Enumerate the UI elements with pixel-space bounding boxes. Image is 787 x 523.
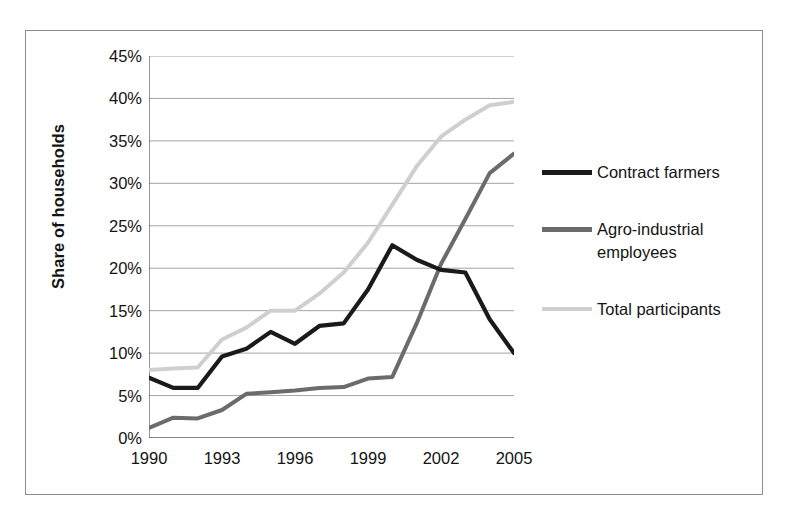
y-axis-tick-label: 30%: [90, 174, 142, 193]
legend-item[interactable]: Total participants: [542, 298, 752, 321]
x-axis-tick-label: 2005: [496, 449, 533, 468]
series-lines: [149, 102, 514, 428]
legend-swatch-icon: [542, 307, 592, 311]
y-axis-tick-label: 40%: [90, 89, 142, 108]
x-axis-tick-label: 2002: [423, 449, 460, 468]
x-axis-tick-label: 1993: [204, 449, 241, 468]
y-axis-tick-label: 35%: [90, 131, 142, 150]
x-axis-tick-label: 1990: [131, 449, 168, 468]
y-axis-title: Share of households: [49, 97, 68, 317]
x-axis-tick-label: 1996: [277, 449, 314, 468]
legend-item-label: Agro-industrial employees: [597, 218, 747, 264]
x-axis-tick-labels: 199019931996199920022005: [149, 449, 514, 477]
chart-legend: Contract farmersAgro-industrial employee…: [542, 161, 752, 355]
plot-area: [149, 56, 514, 438]
legend-item-label: Contract farmers: [597, 161, 720, 184]
x-axis-tick-label: 1999: [350, 449, 387, 468]
chart-figure-frame: Share of households 0%5%10%15%20%25%30%3…: [25, 30, 763, 495]
y-axis-tick-label: 25%: [90, 216, 142, 235]
y-axis-tick-labels: 0%5%10%15%20%25%30%35%40%45%: [86, 56, 142, 438]
y-axis-tick-label: 5%: [90, 386, 142, 405]
legend-swatch-icon: [542, 227, 592, 232]
gridlines: [149, 56, 514, 396]
legend-swatch-icon: [542, 170, 592, 175]
legend-item[interactable]: Agro-industrial employees: [542, 218, 752, 264]
line-chart-svg: [149, 56, 514, 438]
y-axis-tick-label: 45%: [90, 47, 142, 66]
y-axis-tick-label: 15%: [90, 301, 142, 320]
y-axis-tick-label: 0%: [90, 429, 142, 448]
y-axis-tick-label: 10%: [90, 344, 142, 363]
y-axis-tick-label: 20%: [90, 259, 142, 278]
legend-item-label: Total participants: [597, 298, 721, 321]
legend-item[interactable]: Contract farmers: [542, 161, 752, 184]
